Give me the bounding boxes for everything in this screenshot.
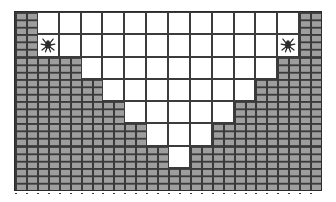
brick-wall-tile: [234, 101, 256, 123]
brick-wall-tile: [255, 146, 277, 168]
brick-wall-tile: [299, 168, 321, 190]
open-floor-tile[interactable]: [277, 12, 299, 34]
open-floor-tile[interactable]: [212, 101, 234, 123]
brick-wall-tile: [15, 34, 37, 56]
brick-wall-tile: [59, 123, 81, 145]
brick-wall-tile: [37, 146, 59, 168]
open-floor-tile[interactable]: [234, 79, 256, 101]
open-floor-tile[interactable]: [124, 34, 146, 56]
brick-wall-tile: [37, 101, 59, 123]
brick-wall-tile: [277, 123, 299, 145]
brick-wall-tile: [277, 146, 299, 168]
open-floor-tile[interactable]: [102, 79, 124, 101]
open-floor-tile[interactable]: [190, 12, 212, 34]
open-floor-tile[interactable]: [255, 57, 277, 79]
brick-wall-tile: [15, 79, 37, 101]
open-floor-tile[interactable]: [190, 123, 212, 145]
brick-wall-tile: [234, 123, 256, 145]
open-floor-tile[interactable]: [255, 12, 277, 34]
open-floor-tile[interactable]: [168, 34, 190, 56]
open-floor-tile[interactable]: [146, 101, 168, 123]
brick-wall-tile: [37, 79, 59, 101]
brick-wall-tile: [37, 123, 59, 145]
open-floor-tile[interactable]: [81, 34, 103, 56]
open-floor-tile[interactable]: [168, 146, 190, 168]
open-floor-tile[interactable]: [234, 34, 256, 56]
open-floor-tile[interactable]: [190, 57, 212, 79]
open-floor-tile[interactable]: [146, 34, 168, 56]
open-floor-tile[interactable]: [59, 34, 81, 56]
open-floor-tile[interactable]: [37, 12, 59, 34]
brick-wall-tile: [255, 168, 277, 190]
open-floor-tile[interactable]: [146, 57, 168, 79]
open-floor-tile[interactable]: [212, 57, 234, 79]
brick-wall-tile: [37, 168, 59, 190]
brick-wall-tile: [190, 146, 212, 168]
brick-wall-tile: [102, 146, 124, 168]
brick-wall-tile: [234, 168, 256, 190]
brick-wall-tile: [146, 168, 168, 190]
open-floor-tile[interactable]: [212, 79, 234, 101]
open-floor-tile[interactable]: [168, 123, 190, 145]
brick-wall-tile: [81, 168, 103, 190]
open-floor-tile[interactable]: [146, 79, 168, 101]
open-floor-tile[interactable]: [168, 101, 190, 123]
brick-wall-tile: [255, 123, 277, 145]
brick-wall-tile: [37, 57, 59, 79]
open-floor-tile[interactable]: [102, 34, 124, 56]
brick-wall-tile: [277, 57, 299, 79]
brick-wall-tile: [15, 146, 37, 168]
brick-wall-tile: [277, 79, 299, 101]
open-floor-tile[interactable]: [81, 57, 103, 79]
open-floor-tile[interactable]: [124, 12, 146, 34]
open-floor-tile[interactable]: [212, 12, 234, 34]
brick-wall-tile: [15, 123, 37, 145]
brick-wall-tile: [212, 123, 234, 145]
open-floor-tile[interactable]: [124, 101, 146, 123]
brick-wall-tile: [124, 168, 146, 190]
brick-wall-tile: [146, 146, 168, 168]
open-floor-tile[interactable]: [168, 79, 190, 101]
brick-wall-tile: [212, 146, 234, 168]
creature-right[interactable]: [277, 34, 299, 56]
open-floor-tile[interactable]: [124, 79, 146, 101]
open-floor-tile[interactable]: [146, 123, 168, 145]
open-floor-tile[interactable]: [190, 34, 212, 56]
brick-wall-tile: [15, 57, 37, 79]
brick-wall-tile: [81, 79, 103, 101]
brick-wall-tile: [168, 168, 190, 190]
brick-wall-tile: [299, 101, 321, 123]
dungeon-map-grid[interactable]: [14, 11, 322, 191]
screenshot-canvas: [0, 0, 336, 202]
brick-wall-tile: [59, 168, 81, 190]
brick-wall-tile: [59, 79, 81, 101]
open-floor-tile[interactable]: [102, 12, 124, 34]
spider-icon: [280, 37, 297, 54]
open-floor-tile[interactable]: [102, 57, 124, 79]
brick-wall-tile: [124, 123, 146, 145]
brick-wall-tile: [102, 123, 124, 145]
open-floor-tile[interactable]: [168, 12, 190, 34]
brick-wall-tile: [59, 57, 81, 79]
brick-wall-tile: [299, 79, 321, 101]
open-floor-tile[interactable]: [234, 57, 256, 79]
open-floor-tile[interactable]: [168, 57, 190, 79]
open-floor-tile[interactable]: [146, 12, 168, 34]
spider-icon: [39, 37, 56, 54]
brick-wall-tile: [124, 146, 146, 168]
open-floor-tile[interactable]: [212, 34, 234, 56]
open-floor-tile[interactable]: [59, 12, 81, 34]
brick-wall-tile: [59, 146, 81, 168]
brick-wall-tile: [15, 12, 37, 34]
brick-wall-tile: [15, 168, 37, 190]
open-floor-tile[interactable]: [255, 34, 277, 56]
brick-wall-tile: [299, 12, 321, 34]
open-floor-tile[interactable]: [81, 12, 103, 34]
creature-left[interactable]: [37, 34, 59, 56]
open-floor-tile[interactable]: [234, 12, 256, 34]
open-floor-tile[interactable]: [124, 57, 146, 79]
open-floor-tile[interactable]: [190, 101, 212, 123]
brick-wall-tile: [102, 168, 124, 190]
open-floor-tile[interactable]: [190, 79, 212, 101]
brick-wall-tile: [81, 146, 103, 168]
